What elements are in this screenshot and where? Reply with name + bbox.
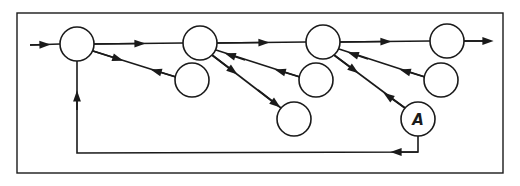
node-n1[interactable] [60, 27, 94, 61]
node-c4[interactable] [424, 63, 458, 97]
arrow-icon [388, 96, 405, 108]
arrow-icon [212, 55, 233, 71]
arrow-icon [353, 54, 368, 59]
node-n3[interactable] [306, 25, 340, 59]
node-n4[interactable] [430, 24, 464, 58]
arrow-icon [94, 44, 140, 45]
node-c1[interactable] [175, 63, 209, 97]
arrow-icon [93, 51, 118, 59]
arrow-icon [156, 71, 176, 77]
node-n2[interactable] [183, 26, 217, 60]
arrow-icon [340, 42, 386, 43]
flow-diagram: A [0, 0, 520, 186]
arrow-icon [217, 43, 264, 44]
arrow-icon [230, 55, 245, 60]
arrow-icon [258, 90, 276, 104]
node-c3[interactable] [277, 102, 311, 136]
arrow-icon [405, 71, 425, 77]
arrow-icon [334, 55, 354, 70]
node-a-label: A [411, 111, 424, 129]
feedback-edge [77, 61, 418, 153]
arrow-icon [280, 71, 300, 77]
node-c2[interactable] [299, 63, 333, 97]
